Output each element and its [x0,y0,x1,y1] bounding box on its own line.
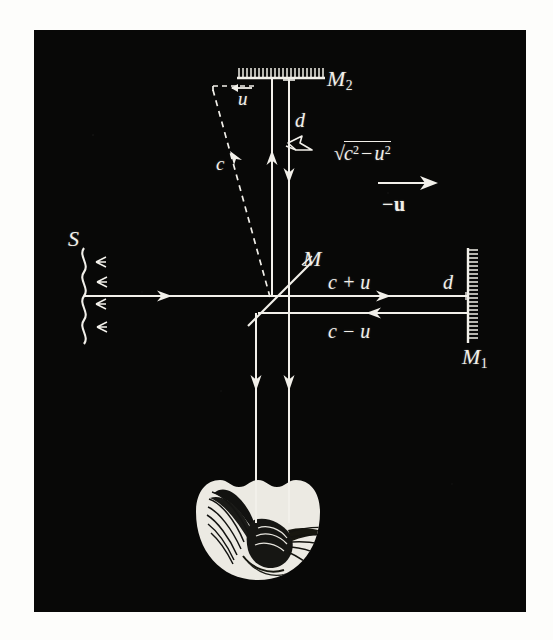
mirror-M2 [237,68,325,78]
observer-eye [196,478,337,580]
label-outbound-speed: c + u [328,272,370,292]
diagram-vector-layer [0,0,553,640]
label-beam-splitter-M: M [303,248,321,270]
ether-drift-light-path [213,84,270,297]
label-arm-length-vertical: d [295,110,305,130]
label-light-speed-c: c [216,154,224,173]
label-transverse-speed: √c2−u2 [334,141,391,163]
incoming-beam [84,291,272,302]
label-mirror-M2: M2 [327,68,353,92]
mirror-M1 [468,248,478,343]
figure-root: M2 u d √c2−u2 c −u S M c + u d c − u M1 [0,0,553,640]
label-ether-wind-vector: −u [382,194,406,214]
label-return-speed: c − u [328,321,370,341]
label-source-S: S [68,228,79,250]
ether-wind-vector [378,176,438,190]
label-arm-length-horizontal: d [443,272,453,292]
output-beams-to-observer [251,296,295,505]
label-mirror-M1: M1 [462,346,488,370]
vertical-arm-beams [267,78,295,296]
horizontal-arm-beams [268,291,468,319]
source-rays [96,257,107,332]
label-drift-u: u [238,89,248,108]
half-silvered-mirror [248,262,312,326]
